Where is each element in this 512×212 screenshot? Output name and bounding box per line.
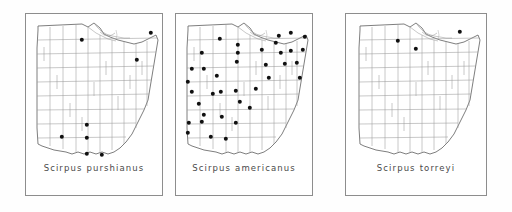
caption-genus: Scirpus [377,163,416,173]
occurrence-dot [295,61,299,65]
map-panel-torreyi: Scirpustorreyi [345,13,487,196]
occurrence-dot [236,43,240,47]
occurrence-dot [248,106,252,110]
caption-species: torreyi [420,163,456,173]
distribution-map-figure: Scirpuspurshianus [0,0,512,212]
occurrence-dot [80,38,84,42]
caption-genus: Scirpus [44,163,83,173]
occurrence-dot [414,47,418,51]
occurrence-dot [190,90,194,94]
occurrence-dot [220,115,224,119]
occurrence-dot [238,100,242,104]
dot-layer [180,18,310,166]
occurrence-dot [218,37,222,41]
occurrence-dot [202,67,206,71]
occurrence-dot [190,67,194,71]
occurrence-dot [85,123,89,127]
occurrence-dot [298,76,302,80]
caption-species: purshianus [86,163,144,173]
caption-species: americanus [235,163,296,173]
occurrence-dot [85,136,89,140]
occurrence-dot [209,135,213,139]
occurrence-dot [200,120,204,124]
panel-caption: Scirpusamericanus [176,163,312,173]
occurrence-dot [186,80,190,84]
occurrence-dot [396,39,400,43]
occurrence-dot [202,113,206,117]
occurrence-dot [234,89,238,93]
occurrence-dot [215,74,219,78]
caption-genus: Scirpus [192,163,231,173]
occurrence-dot [200,51,204,55]
occurrence-dot [186,131,190,135]
occurrence-dot [274,41,278,45]
map-panel-americanus: Scirpusamericanus [175,13,313,196]
panel-caption: Scirpustorreyi [346,163,486,173]
panel-caption: Scirpuspurshianus [26,163,162,173]
map-panel-purshianus: Scirpuspurshianus [25,13,163,196]
occurrence-dot [279,51,283,55]
occurrence-dot [289,49,293,53]
occurrence-dot [301,48,305,52]
occurrence-dot [303,35,307,39]
dot-layer [350,18,484,166]
dot-layer [30,18,160,166]
occurrence-dot [289,31,293,35]
occurrence-dot [187,121,191,125]
occurrence-dot [224,137,228,141]
occurrence-dot [149,31,153,35]
occurrence-dot [85,152,89,156]
occurrence-dot [283,62,287,66]
occurrence-dot [235,60,239,64]
occurrence-dot [234,121,238,125]
occurrence-dot [197,102,201,106]
occurrence-dot [458,30,462,34]
occurrence-dot [264,63,268,67]
occurrence-dot [267,76,271,80]
occurrence-dot [60,135,64,139]
occurrence-dot [254,87,258,91]
occurrence-dot [211,92,215,96]
occurrence-dot [277,34,281,38]
occurrence-dot [260,48,264,52]
occurrence-dot [219,90,223,94]
occurrence-dot [236,51,240,55]
occurrence-dot [135,58,139,62]
occurrence-dot [100,153,104,157]
